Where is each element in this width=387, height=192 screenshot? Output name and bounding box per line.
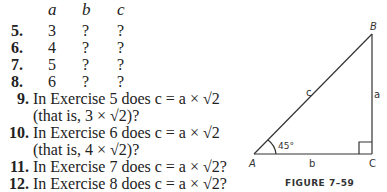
angle-arc xyxy=(268,140,276,154)
value-a: 3 xyxy=(48,22,56,40)
value-c: ? xyxy=(117,56,124,74)
right-triangle-figure: B A C c a b 45° xyxy=(240,0,387,192)
column-header-c: c xyxy=(117,0,125,20)
exercise-number: 5. xyxy=(11,22,23,40)
exercise-11: 11.In Exercise 7 does c = a × √2? xyxy=(0,158,227,176)
exercise-number: 8. xyxy=(11,73,23,91)
vertex-b-label: B xyxy=(370,21,377,32)
vertex-c-label: C xyxy=(369,158,376,169)
exercise-9: 9.In Exercise 5 does c = a × √2 xyxy=(0,90,220,108)
exercise-number: 11. xyxy=(0,158,29,176)
value-b: ? xyxy=(82,22,89,40)
exercise-number: 12. xyxy=(0,175,29,192)
angle-label: 45° xyxy=(278,141,294,151)
value-b: ? xyxy=(82,56,89,74)
exercise-text: In Exercise 7 does c = a × √2? xyxy=(33,158,227,175)
value-c: ? xyxy=(117,39,124,57)
value-c: ? xyxy=(117,22,124,40)
exercise-text: In Exercise 5 does c = a × √2 xyxy=(33,90,220,107)
column-header-a: a xyxy=(48,0,57,20)
side-c-label: c xyxy=(306,87,312,98)
exercise-number: 6. xyxy=(11,39,23,57)
value-c: ? xyxy=(117,73,124,91)
exercise-12: 12.In Exercise 8 does c = a × √2? xyxy=(0,175,227,192)
value-b: ? xyxy=(82,73,89,91)
exercise-number: 10. xyxy=(0,124,29,142)
exercise-9-continuation: (that is, 3 × √2)? xyxy=(33,107,139,125)
exercise-text: In Exercise 6 does c = a × √2 xyxy=(33,124,220,141)
exercise-number: 7. xyxy=(11,56,23,74)
exercise-number: 9. xyxy=(0,90,29,108)
exercise-10: 10.In Exercise 6 does c = a × √2 xyxy=(0,124,220,142)
hypotenuse-c xyxy=(254,34,372,154)
vertex-a-label: A xyxy=(248,158,256,169)
exercise-text: In Exercise 8 does c = a × √2? xyxy=(33,175,227,192)
value-a: 5 xyxy=(48,56,56,74)
side-b-label: b xyxy=(309,158,315,169)
value-a: 4 xyxy=(48,39,56,57)
exercise-10-continuation: (that is, 4 × √2)? xyxy=(33,141,139,159)
figure-caption: FIGURE 7–59 xyxy=(285,178,354,188)
column-header-b: b xyxy=(82,0,91,20)
value-b: ? xyxy=(82,39,89,57)
right-angle-marker xyxy=(359,142,372,154)
value-a: 6 xyxy=(48,73,56,91)
side-a-label: a xyxy=(374,89,380,100)
